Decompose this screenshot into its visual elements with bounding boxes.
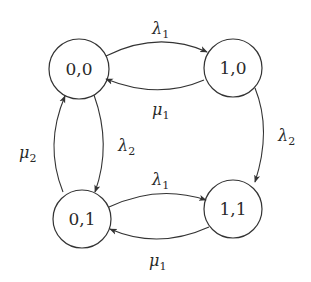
state-0-1: 0,1 xyxy=(53,190,111,248)
edge-label-mu2: μ2 xyxy=(19,143,36,165)
state-label: 0,0 xyxy=(65,59,92,79)
edge-label-lambda2-left: λ2 xyxy=(117,136,135,158)
state-label: 1,0 xyxy=(219,58,246,78)
state-label: 0,1 xyxy=(68,209,95,229)
state-1-1: 1,1 xyxy=(204,180,262,238)
edge-00-to-01 xyxy=(94,95,103,192)
edge-label-mu1-top: μ1 xyxy=(152,100,169,122)
state-0-0: 0,0 xyxy=(49,39,109,99)
edge-label-lambda1-top: λ1 xyxy=(151,19,169,41)
state-1-0: 1,0 xyxy=(204,39,262,97)
edge-01-to-00 xyxy=(54,96,65,192)
state-diagram: 0,0 1,0 0,1 1,1 λ1 μ1 λ2 λ2 μ2 λ1 μ1 xyxy=(0,0,311,282)
edge-10-to-00 xyxy=(106,79,204,90)
state-label: 1,1 xyxy=(219,199,246,219)
edge-label-lambda2-right: λ2 xyxy=(277,126,295,148)
edge-00-to-10 xyxy=(106,42,207,56)
edge-11-to-01 xyxy=(110,227,209,239)
edge-label-lambda1-bottom: λ1 xyxy=(151,170,169,192)
edge-01-to-11 xyxy=(109,193,206,207)
edge-10-to-11 xyxy=(255,88,264,182)
edge-label-mu1-bottom: μ1 xyxy=(149,251,166,273)
